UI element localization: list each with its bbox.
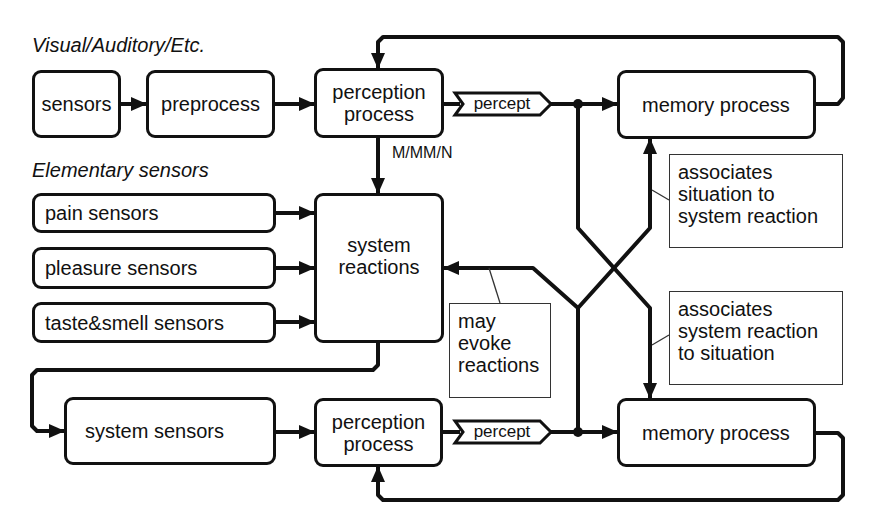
percept-label-top: percept: [462, 93, 542, 115]
sensors-box: sensors: [32, 70, 121, 138]
path-situation-to-reaction-down: [578, 104, 650, 398]
pleasure-sensors-label: pleasure sensors: [45, 257, 197, 279]
mmn-label: M/MM/N: [392, 145, 452, 162]
arrow-may-evoke-reactions: [444, 268, 578, 308]
junction-dot-bottom: [573, 427, 583, 437]
perception-bottom-line1: perception: [332, 411, 425, 433]
note3-line1: may: [458, 310, 550, 332]
perception-bottom-line2: process: [343, 433, 413, 455]
perception-label-line2: process: [344, 103, 414, 125]
preprocess-label: preprocess: [161, 93, 260, 115]
note3-line2: evoke: [458, 332, 550, 354]
note2-line2: system reaction: [678, 320, 842, 342]
system-reactions-line1: system: [347, 234, 410, 256]
note1-line3: system reaction: [678, 205, 842, 227]
perception-process-box-top: perception process: [314, 68, 444, 138]
sensors-label: sensors: [41, 93, 111, 115]
system-sensors-box: system sensors: [64, 397, 276, 465]
pleasure-sensors-box: pleasure sensors: [32, 247, 276, 289]
note3-line3: reactions: [458, 354, 550, 376]
taste-smell-sensors-label: taste&smell sensors: [45, 312, 224, 334]
system-reactions-box: system reactions: [314, 193, 444, 343]
note-situation-to-reaction: associates situation to system reaction: [669, 154, 843, 248]
taste-smell-sensors-box: taste&smell sensors: [32, 302, 276, 343]
heading-visual-auditory: Visual/Auditory/Etc.: [32, 35, 205, 56]
percept-label-bottom: percept: [462, 421, 542, 443]
note2-line1: associates: [678, 298, 842, 320]
memory-process-box-bottom: memory process: [617, 398, 816, 467]
system-reactions-line2: reactions: [338, 256, 419, 278]
heading-elementary-sensors: Elementary sensors: [32, 160, 209, 181]
memory-label-bottom: memory process: [642, 422, 790, 444]
note1-line2: situation to: [678, 183, 842, 205]
path-reaction-to-situation-up: [578, 139, 650, 432]
pain-sensors-box: pain sensors: [32, 193, 276, 233]
note-reaction-to-situation: associates system reaction to situation: [669, 291, 843, 385]
perception-label-line1: perception: [332, 81, 425, 103]
memory-process-box-top: memory process: [617, 70, 816, 139]
system-sensors-label: system sensors: [85, 420, 224, 442]
preprocess-box: preprocess: [146, 70, 275, 138]
note2-line3: to situation: [678, 342, 842, 364]
perception-process-box-bottom: perception process: [314, 398, 443, 467]
note1-line1: associates: [678, 161, 842, 183]
note-may-evoke-reactions: may evoke reactions: [449, 303, 551, 398]
pain-sensors-label: pain sensors: [45, 202, 158, 224]
memory-label-top: memory process: [642, 94, 790, 116]
